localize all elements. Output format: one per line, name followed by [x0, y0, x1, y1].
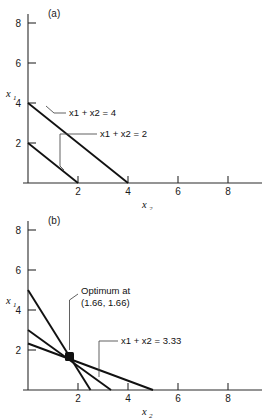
panel-b-xtick-label-6: 6	[175, 393, 181, 404]
panel-b-annotation-optimum-line2: (1.66, 1.66)	[81, 297, 130, 308]
panel-a-xtick-label-8: 8	[225, 186, 231, 197]
panel-b-annotation-optimum-line1: Optimum at	[81, 285, 130, 296]
panel-b-chart: 8 6 4 2 2 4 6 8 x 1 x 2 (b) Optimum at (…	[0, 210, 270, 420]
panel-a-ytick-label-8: 8	[15, 18, 21, 29]
panel-b-constraint-line-333	[28, 344, 153, 391]
panel-a-ytick-label-6: 6	[15, 58, 21, 69]
panel-a-xtick-label-4: 4	[125, 186, 131, 197]
panel-a-constraint-line-2	[28, 143, 78, 183]
panel-b-label: (b)	[48, 215, 60, 226]
panel-b-x-axis-subscript: 2	[149, 412, 153, 420]
panel-a-y-axis-subscript: 1	[13, 94, 17, 102]
panel-a-leader-2	[60, 134, 64, 170]
panel-a-label: (a)	[48, 8, 60, 19]
panel-b-xtick-label-2: 2	[75, 393, 81, 404]
panel-a-xtick-label-6: 6	[175, 186, 181, 197]
panel-b-annotation-333: x1 + x2 = 3.33	[121, 335, 181, 346]
panel-a-leader-1-tail	[46, 106, 54, 113]
panel-b-leader-optimum	[70, 294, 79, 350]
panel-b-ytick-label-2: 2	[15, 345, 21, 356]
panel-a-xtick-label-2: 2	[75, 186, 81, 197]
panel-b-x-axis-title: x	[141, 406, 147, 417]
panel-a-annotation-2: x1 + x2 = 2	[100, 128, 147, 139]
panel-b-xtick-label-4: 4	[125, 393, 131, 404]
panel-a-ytick-label-2: 2	[15, 138, 21, 149]
panel-a-y-axis-title: x	[5, 88, 11, 99]
figure-container: 8 6 4 2 2 4 6 8 x 1 x 2 (a) x1 + x2 = 4 …	[0, 0, 270, 420]
panel-b-y-axis-title: x	[5, 295, 11, 306]
panel-a-annotation-1: x1 + x2 = 4	[69, 107, 116, 118]
panel-b-ytick-label-6: 6	[15, 265, 21, 276]
panel-b-ytick-label-8: 8	[15, 225, 21, 236]
panel-a-chart: 8 6 4 2 2 4 6 8 x 1 x 2 (a) x1 + x2 = 4 …	[0, 0, 270, 210]
panel-b-y-axis-subscript: 1	[13, 301, 17, 309]
panel-b-xtick-label-8: 8	[225, 393, 231, 404]
panel-a-x-axis-title: x	[141, 199, 147, 210]
panel-b-optimum-marker	[65, 352, 74, 361]
